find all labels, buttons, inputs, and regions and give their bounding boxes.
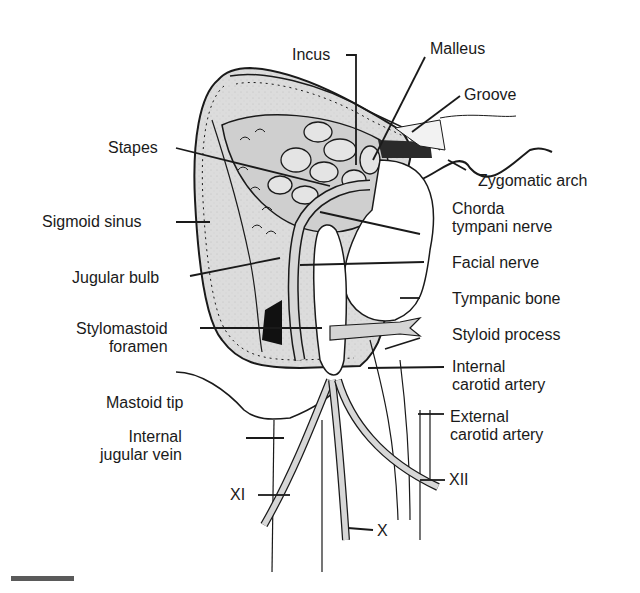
label-line-2: foramen bbox=[76, 338, 168, 356]
label-line-2: carotid artery bbox=[452, 376, 545, 394]
label-tympanic-bone: Tympanic bone bbox=[452, 290, 561, 308]
cranial-nerves bbox=[264, 380, 438, 540]
label-styloid-process: Styloid process bbox=[452, 326, 561, 344]
label-line-1: Chorda bbox=[452, 200, 553, 218]
label-external-carotid-artery: External carotid artery bbox=[450, 408, 543, 444]
label-stapes: Stapes bbox=[108, 139, 158, 157]
label-line-1: External bbox=[450, 408, 543, 426]
label-groove: Groove bbox=[464, 86, 516, 104]
label-malleus: Malleus bbox=[430, 40, 485, 58]
label-internal-jugular-vein: Internal jugular vein bbox=[100, 428, 182, 464]
label-zygomatic-arch: Zygomatic arch bbox=[478, 172, 587, 190]
label-line-2: tympani nerve bbox=[452, 218, 553, 236]
label-facial-nerve: Facial nerve bbox=[452, 254, 539, 272]
label-mastoid-tip: Mastoid tip bbox=[106, 394, 183, 412]
label-line-1: Internal bbox=[100, 428, 182, 446]
label-internal-carotid-artery: Internal carotid artery bbox=[452, 358, 545, 394]
scale-bar bbox=[11, 576, 74, 581]
styloid-sheath bbox=[314, 225, 347, 375]
label-line-2: carotid artery bbox=[450, 426, 543, 444]
label-line-2: jugular vein bbox=[100, 446, 182, 464]
label-line-1: Stylomastoid bbox=[76, 320, 168, 338]
label-nerve-x: X bbox=[377, 522, 388, 540]
label-nerve-xii: XII bbox=[449, 471, 469, 489]
label-stylomastoid-foramen: Stylomastoid foramen bbox=[76, 320, 168, 356]
label-nerve-xi: XI bbox=[230, 486, 245, 504]
label-incus: Incus bbox=[292, 46, 330, 64]
label-chorda-tympani-nerve: Chorda tympani nerve bbox=[452, 200, 553, 236]
label-line-1: Internal bbox=[452, 358, 545, 376]
label-jugular-bulb: Jugular bulb bbox=[72, 269, 159, 287]
label-sigmoid-sinus: Sigmoid sinus bbox=[42, 213, 142, 231]
